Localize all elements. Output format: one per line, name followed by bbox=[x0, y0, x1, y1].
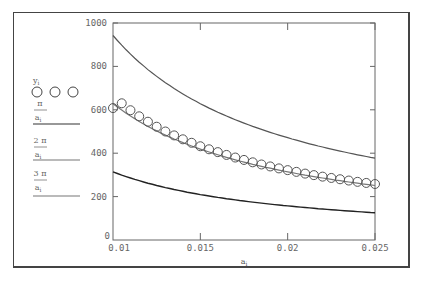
data-point bbox=[143, 117, 152, 126]
data-point bbox=[336, 175, 345, 184]
x-tick-label: 0.025 bbox=[361, 243, 388, 253]
data-point bbox=[283, 166, 292, 175]
legend-numerator: 3 π bbox=[34, 169, 47, 178]
curve-2ai bbox=[113, 104, 375, 186]
legend-denominator: ai bbox=[35, 150, 42, 160]
data-point bbox=[126, 106, 135, 115]
curve-3ai bbox=[113, 36, 375, 159]
scatter-yi bbox=[109, 99, 380, 189]
x-tick-label: 0.01 bbox=[108, 243, 130, 253]
y-tick-label: 1000 bbox=[85, 18, 107, 28]
legend-circle-icon bbox=[32, 87, 42, 97]
data-point bbox=[257, 160, 266, 169]
data-point bbox=[292, 167, 301, 176]
legend-denominator: ai bbox=[35, 113, 42, 123]
data-point bbox=[274, 164, 283, 173]
y-tick-label: 400 bbox=[91, 148, 107, 158]
legend-numerator: π bbox=[37, 99, 42, 108]
data-point bbox=[231, 153, 240, 162]
legend-circle-icon bbox=[68, 87, 78, 97]
x-axis-label: ai bbox=[241, 257, 248, 267]
data-point bbox=[301, 169, 310, 178]
data-point bbox=[353, 177, 362, 186]
plot-area bbox=[113, 23, 375, 240]
data-point bbox=[117, 99, 126, 108]
y-tick-label: 600 bbox=[91, 105, 107, 115]
y-tick-label: 0 bbox=[105, 231, 110, 241]
data-point bbox=[152, 122, 161, 131]
data-point bbox=[344, 176, 353, 185]
x-tick-label: 0.015 bbox=[187, 243, 214, 253]
y-tick-label: 200 bbox=[91, 192, 107, 202]
data-point bbox=[309, 171, 318, 180]
data-point bbox=[248, 158, 257, 167]
legend-circle-icon bbox=[50, 87, 60, 97]
data-point bbox=[135, 112, 144, 121]
data-point bbox=[327, 173, 336, 182]
data-point bbox=[362, 178, 371, 187]
x-tick-label: 0.02 bbox=[277, 243, 299, 253]
data-point bbox=[222, 150, 231, 159]
legend-denominator: ai bbox=[35, 183, 42, 193]
data-point bbox=[266, 162, 275, 171]
data-point bbox=[318, 172, 327, 181]
legend-numerator: 2 π bbox=[34, 136, 47, 145]
y-tick-label: 800 bbox=[91, 61, 107, 71]
chart-canvas: 020040060080010000.010.0150.020.025aiyiπ… bbox=[0, 0, 425, 283]
legend: yiπai2 πai3 πai bbox=[32, 76, 80, 196]
data-point bbox=[240, 155, 249, 164]
legend-yi-label: yi bbox=[32, 76, 40, 86]
